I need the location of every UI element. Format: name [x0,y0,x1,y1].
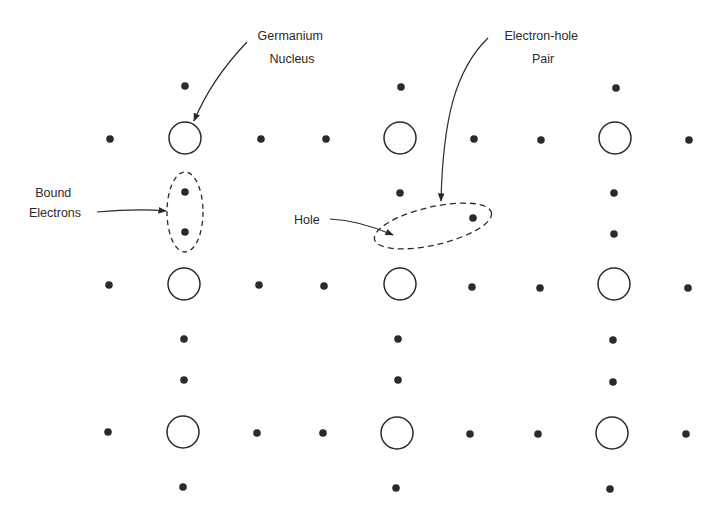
bound-electrons-label: Bound Electrons [29,186,81,220]
electron-dot [468,283,476,291]
germanium-nucleus [169,122,201,154]
electron-dot [180,335,188,343]
electron-dot [469,214,477,222]
electron-dot [394,376,402,384]
electron-hole-pair-oval [370,194,495,258]
electron-dot [105,281,113,289]
electron-dot [257,135,265,143]
bound-electrons-arrow [97,210,166,212]
electron-dot [394,335,402,343]
electron-dot [606,485,614,493]
electron-dot [396,189,404,197]
germanium-nucleus [599,122,631,154]
germanium-nucleus [384,268,416,300]
electron-dot [610,230,618,238]
germanium-lattice-diagram: Germanium Nucleus Electron-hole Pair Bou… [0,0,717,520]
electron-dot [536,284,544,292]
electron-dot [397,83,405,91]
electron-dot [684,284,692,292]
germanium-nucleus [381,417,413,449]
electron-dot [104,428,112,436]
electron-dot [322,135,330,143]
electron-dot [470,135,478,143]
electron-dot [181,188,189,196]
electron-dot [534,430,542,438]
electrons-group [104,82,693,493]
bound-electrons-oval [167,172,203,252]
electron-dot [612,84,620,92]
electron-dot [320,282,328,290]
germanium-nucleus [168,268,200,300]
electron-dot [319,429,327,437]
electron-dot [106,135,114,143]
germanium-nucleus [167,416,199,448]
electron-dot [685,136,693,144]
germanium-nucleus [596,417,628,449]
electron-dot [181,82,189,90]
electron-dot [610,189,618,197]
germanium-nucleus-arrow [194,42,247,121]
electron-dot [466,430,474,438]
electron-dot [537,136,545,144]
electron-dot [253,429,261,437]
electron-dot [255,281,263,289]
germanium-nucleus [384,122,416,154]
electron-hole-pair-arrow [441,38,488,201]
germanium-nucleus [598,268,630,300]
lattice-figure: Germanium Nucleus Electron-hole Pair Bou… [0,0,717,520]
electron-dot [609,336,617,344]
hole-label: Hole [294,213,320,227]
electron-dot [179,483,187,491]
electron-dot [181,228,189,236]
electron-dot [392,484,400,492]
electron-dot [609,378,617,386]
electron-dot [180,376,188,384]
electron-dot [682,430,690,438]
hole-arrow [330,219,393,235]
electron-hole-pair-label: Electron-hole Pair [504,29,581,66]
nuclei-group [167,122,631,449]
germanium-nucleus-label: Germanium Nucleus [258,29,327,66]
